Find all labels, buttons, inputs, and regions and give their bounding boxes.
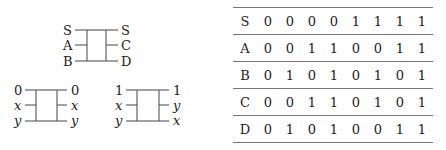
- table-cell: 1: [323, 89, 345, 116]
- table-cell: 0: [367, 35, 389, 62]
- gate-input-label: A: [63, 39, 72, 52]
- table-cell: 1: [411, 8, 433, 35]
- gate-input-label: 1: [115, 84, 123, 97]
- truth-table: S 0 0 0 0 1 1 1 1 A 0 0 1 1 0 0 1 1 B 0 …: [233, 7, 433, 143]
- table-cell: 1: [323, 62, 345, 89]
- table-cell: 1: [279, 116, 301, 143]
- table-cell: 0: [301, 8, 323, 35]
- row-label: S: [233, 8, 257, 35]
- gate-input-label: y: [14, 114, 21, 127]
- table-cell: 0: [257, 89, 279, 116]
- table-cell: 0: [279, 35, 301, 62]
- table-cell: 0: [301, 62, 323, 89]
- table-cell: 1: [389, 8, 411, 35]
- table-cell: 0: [279, 89, 301, 116]
- gate-output-label: D: [121, 55, 131, 68]
- row-label: C: [233, 89, 257, 116]
- row-label: B: [233, 62, 257, 89]
- table-cell: 0: [301, 116, 323, 143]
- gate-input-label: y: [115, 114, 122, 127]
- row-label: D: [233, 116, 257, 143]
- table-cell: 1: [323, 116, 345, 143]
- gate-input-label: 0: [14, 84, 22, 97]
- table-cell: 0: [345, 116, 367, 143]
- gate-output-label: x: [71, 99, 78, 112]
- fredkin-gate-generic: S A B S C D: [60, 24, 130, 64]
- table-row: S 0 0 0 0 1 1 1 1: [233, 8, 433, 35]
- gate-output-label: y: [71, 114, 78, 127]
- table-cell: 0: [279, 8, 301, 35]
- gate-input-label: x: [115, 99, 122, 112]
- table-row: D 0 1 0 1 0 0 1 1: [233, 116, 433, 143]
- gate-output-label: 1: [173, 84, 181, 97]
- table-cell: 1: [279, 62, 301, 89]
- table-cell: 0: [323, 8, 345, 35]
- table-cell: 1: [367, 89, 389, 116]
- table-cell: 1: [389, 35, 411, 62]
- fredkin-gate-control-1: 1 x y 1 y x: [113, 84, 183, 124]
- table-cell: 1: [411, 116, 433, 143]
- gate-output-label: x: [173, 114, 180, 127]
- gate-input-label: S: [63, 24, 72, 37]
- table-cell: 1: [323, 35, 345, 62]
- table-cell: 1: [411, 62, 433, 89]
- gate-input-label: B: [63, 55, 73, 68]
- table-cell: 0: [345, 89, 367, 116]
- table-cell: 0: [389, 89, 411, 116]
- table-cell: 1: [345, 8, 367, 35]
- table-cell: 0: [257, 62, 279, 89]
- table-cell: 0: [257, 8, 279, 35]
- gate-input-label: x: [14, 99, 21, 112]
- table-cell: 1: [301, 35, 323, 62]
- table-row: B 0 1 0 1 0 1 0 1: [233, 62, 433, 89]
- row-label: A: [233, 35, 257, 62]
- gate-output-label: S: [121, 24, 130, 37]
- table-cell: 1: [367, 8, 389, 35]
- gate-output-label: y: [173, 99, 180, 112]
- table-cell: 0: [257, 35, 279, 62]
- table-cell: 1: [411, 89, 433, 116]
- table-cell: 0: [257, 116, 279, 143]
- table-cell: 0: [345, 35, 367, 62]
- table-cell: 0: [389, 62, 411, 89]
- table-cell: 1: [301, 89, 323, 116]
- table-row: C 0 0 1 1 0 1 0 1: [233, 89, 433, 116]
- table-cell: 0: [367, 116, 389, 143]
- gate-output-label: C: [121, 39, 131, 52]
- table-cell: 1: [389, 116, 411, 143]
- gate-output-label: 0: [71, 84, 79, 97]
- table-cell: 1: [411, 35, 433, 62]
- table-cell: 0: [345, 62, 367, 89]
- table-row: A 0 0 1 1 0 0 1 1: [233, 35, 433, 62]
- table-cell: 1: [367, 62, 389, 89]
- fredkin-gate-control-0: 0 x y 0 x y: [12, 84, 82, 124]
